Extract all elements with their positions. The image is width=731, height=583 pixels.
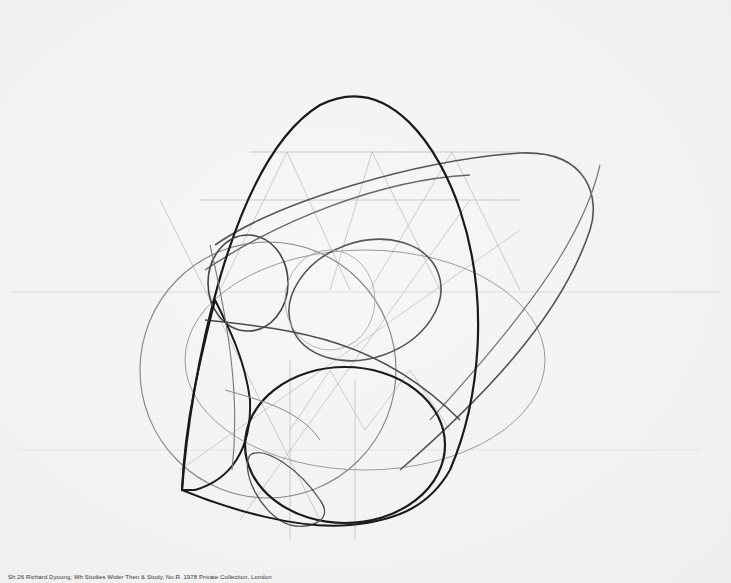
lower-heavy-circle	[245, 367, 445, 523]
inner-ellipse	[272, 219, 458, 381]
main-egg-outline	[182, 96, 478, 490]
right-tangent-curve	[430, 165, 600, 420]
upper-left-circle	[208, 235, 288, 331]
graphite-stroke	[210, 245, 235, 470]
pencil-drawing	[0, 0, 731, 583]
artwork-caption: Sh.26 Richard Dyoung, Wh Studies Wider T…	[8, 574, 272, 580]
large-circle	[140, 242, 396, 498]
graphite-stroke	[225, 390, 320, 440]
faint-circle	[285, 250, 375, 350]
bottom-curve	[182, 470, 450, 526]
